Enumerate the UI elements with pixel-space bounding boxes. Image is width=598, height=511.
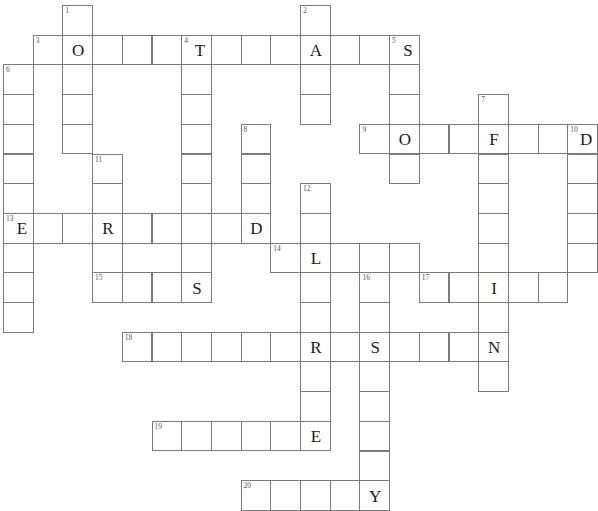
crossword-cell[interactable] — [359, 361, 390, 392]
crossword-cell[interactable]: D — [241, 213, 272, 244]
crossword-cell[interactable] — [3, 272, 34, 303]
crossword-cell[interactable]: L — [300, 243, 331, 274]
crossword-cell[interactable] — [478, 302, 509, 333]
crossword-cell[interactable] — [359, 302, 390, 333]
crossword-cell[interactable] — [152, 213, 183, 244]
crossword-cell[interactable] — [478, 213, 509, 244]
crossword-cell[interactable] — [359, 391, 390, 422]
crossword-cell[interactable] — [241, 154, 272, 185]
crossword-cell[interactable]: 20 — [241, 480, 272, 511]
crossword-cell[interactable] — [270, 421, 301, 452]
crossword-cell[interactable] — [62, 124, 93, 155]
crossword-cell[interactable] — [211, 213, 242, 244]
crossword-cell[interactable] — [152, 272, 183, 303]
crossword-cell[interactable]: 1 — [62, 5, 93, 36]
crossword-cell[interactable] — [359, 35, 390, 66]
crossword-cell[interactable]: 18 — [122, 332, 153, 363]
crossword-cell[interactable] — [359, 421, 390, 452]
crossword-cell[interactable] — [152, 332, 183, 363]
crossword-cell[interactable]: R — [300, 332, 331, 363]
crossword-cell[interactable]: R — [92, 213, 123, 244]
crossword-cell[interactable] — [241, 421, 272, 452]
crossword-cell[interactable] — [419, 332, 450, 363]
crossword-cell[interactable]: S — [181, 272, 212, 303]
crossword-cell[interactable]: N — [478, 332, 509, 363]
crossword-cell[interactable] — [478, 243, 509, 274]
crossword-cell[interactable]: 4T — [181, 35, 212, 66]
crossword-cell[interactable] — [181, 332, 212, 363]
crossword-cell[interactable] — [359, 243, 390, 274]
crossword-cell[interactable] — [330, 243, 361, 274]
crossword-cell[interactable]: I — [478, 272, 509, 303]
crossword-cell[interactable]: F — [478, 124, 509, 155]
crossword-cell[interactable] — [211, 35, 242, 66]
crossword-cell[interactable] — [300, 480, 331, 511]
crossword-cell[interactable] — [419, 124, 450, 155]
crossword-cell[interactable]: 12 — [300, 183, 331, 214]
crossword-cell[interactable]: 9 — [359, 124, 390, 155]
crossword-cell[interactable] — [181, 94, 212, 125]
crossword-cell[interactable]: 17 — [419, 272, 450, 303]
crossword-cell[interactable] — [92, 183, 123, 214]
crossword-cell[interactable] — [3, 94, 34, 125]
crossword-cell[interactable] — [389, 64, 420, 95]
crossword-cell[interactable] — [152, 35, 183, 66]
crossword-cell[interactable] — [92, 35, 123, 66]
crossword-cell[interactable] — [211, 332, 242, 363]
crossword-cell[interactable] — [508, 124, 539, 155]
crossword-cell[interactable] — [3, 243, 34, 274]
crossword-cell[interactable]: 15 — [92, 272, 123, 303]
crossword-cell[interactable] — [359, 451, 390, 482]
crossword-cell[interactable] — [567, 154, 598, 185]
crossword-cell[interactable] — [122, 272, 153, 303]
crossword-cell[interactable] — [62, 213, 93, 244]
crossword-cell[interactable] — [389, 243, 420, 274]
crossword-cell[interactable]: 3 — [33, 35, 64, 66]
crossword-cell[interactable]: 14 — [270, 243, 301, 274]
crossword-cell[interactable]: O — [389, 124, 420, 155]
crossword-cell[interactable] — [567, 183, 598, 214]
crossword-cell[interactable] — [241, 332, 272, 363]
crossword-cell[interactable] — [300, 213, 331, 244]
crossword-cell[interactable] — [300, 361, 331, 392]
crossword-cell[interactable] — [567, 213, 598, 244]
crossword-cell[interactable] — [62, 64, 93, 95]
crossword-cell[interactable] — [300, 391, 331, 422]
crossword-cell[interactable] — [508, 272, 539, 303]
crossword-cell[interactable] — [181, 213, 212, 244]
crossword-cell[interactable] — [449, 272, 480, 303]
crossword-cell[interactable]: 13E — [3, 213, 34, 244]
crossword-cell[interactable] — [300, 64, 331, 95]
crossword-cell[interactable]: O — [62, 35, 93, 66]
crossword-cell[interactable] — [181, 154, 212, 185]
crossword-cell[interactable] — [241, 183, 272, 214]
crossword-cell[interactable] — [270, 35, 301, 66]
crossword-cell[interactable] — [330, 35, 361, 66]
crossword-cell[interactable] — [478, 154, 509, 185]
crossword-cell[interactable] — [3, 154, 34, 185]
crossword-cell[interactable] — [449, 124, 480, 155]
crossword-cell[interactable]: Y — [359, 480, 390, 511]
crossword-cell[interactable]: 19 — [152, 421, 183, 452]
crossword-cell[interactable] — [449, 332, 480, 363]
crossword-cell[interactable] — [62, 94, 93, 125]
crossword-cell[interactable] — [92, 243, 123, 274]
crossword-cell[interactable] — [389, 94, 420, 125]
crossword-cell[interactable] — [478, 183, 509, 214]
crossword-cell[interactable] — [538, 124, 569, 155]
crossword-cell[interactable] — [181, 183, 212, 214]
crossword-cell[interactable]: E — [300, 421, 331, 452]
crossword-cell[interactable] — [567, 243, 598, 274]
crossword-cell[interactable] — [122, 35, 153, 66]
crossword-cell[interactable] — [389, 332, 420, 363]
crossword-cell[interactable] — [122, 213, 153, 244]
crossword-cell[interactable] — [241, 35, 272, 66]
crossword-cell[interactable] — [300, 302, 331, 333]
crossword-cell[interactable] — [181, 64, 212, 95]
crossword-cell[interactable] — [330, 332, 361, 363]
crossword-cell[interactable] — [211, 421, 242, 452]
crossword-cell[interactable] — [300, 272, 331, 303]
crossword-cell[interactable]: 10D — [567, 124, 598, 155]
crossword-cell[interactable] — [33, 213, 64, 244]
crossword-cell[interactable]: 6 — [3, 64, 34, 95]
